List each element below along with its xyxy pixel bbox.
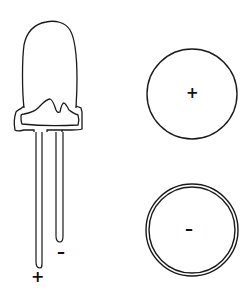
cathode-minus-label: – — [57, 244, 65, 260]
positive-terminal-label: + — [186, 86, 199, 101]
led-dome — [23, 21, 78, 108]
led-anode-leg — [36, 132, 42, 268]
diagram-canvas — [0, 0, 251, 301]
anode-plus-label: + — [31, 269, 44, 285]
led-inner-reflector — [21, 99, 79, 126]
led-flange — [14, 106, 82, 132]
led-cathode-leg — [56, 132, 63, 242]
negative-terminal-label: – — [185, 221, 193, 237]
